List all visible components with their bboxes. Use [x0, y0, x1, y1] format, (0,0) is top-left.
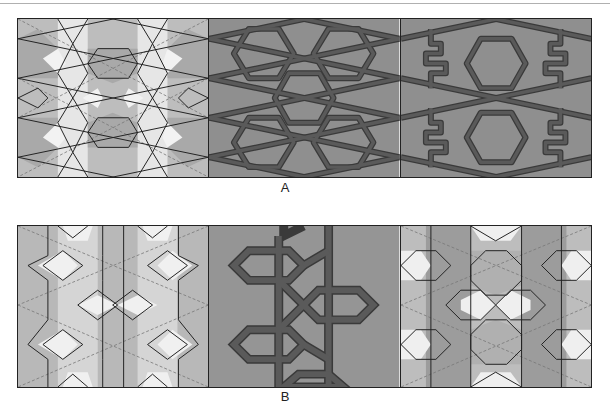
row-label-b: B: [275, 389, 295, 404]
tiling-variant-graphic: [401, 226, 591, 387]
strapwork-graphic: [209, 226, 399, 387]
panel-b-construction-tiling: [18, 226, 209, 387]
panel-a-interlaced-strapwork: [209, 19, 400, 177]
tiling-graphic: [18, 226, 208, 387]
panel-a-construction-tiling: [18, 19, 209, 177]
top-rule: [0, 3, 610, 4]
fret-strapwork-graphic: [401, 19, 591, 177]
tiling-graphic: [18, 19, 208, 177]
panel-a-strapwork-fret: [401, 19, 591, 177]
panel-b-interlaced-strapwork: [209, 226, 400, 387]
figure-row-a: [17, 18, 592, 178]
row-label-a: A: [275, 180, 295, 195]
strapwork-graphic: [209, 19, 399, 177]
panel-b-tiling-variant: [401, 226, 591, 387]
figure-row-b: [17, 225, 592, 388]
